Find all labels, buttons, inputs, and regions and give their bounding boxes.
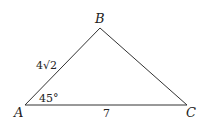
vertex-label-b: B [95, 12, 105, 25]
side-ac-label: 7 [103, 108, 110, 119]
vertex-label-a: A [14, 106, 23, 119]
vertex-label-c: C [186, 106, 196, 119]
side-ab-label: 4√2 [36, 60, 57, 71]
angle-a-label: 45° [39, 93, 59, 104]
